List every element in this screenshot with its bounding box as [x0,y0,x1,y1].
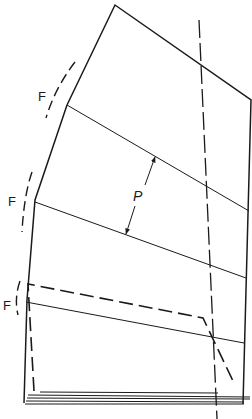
p-label: P [133,188,143,204]
p-arrow-down [126,206,135,234]
boom-line-2 [28,395,250,397]
sail-luff [24,105,67,403]
reefed-outline-line [28,284,233,391]
sail-diagram: F F F P [0,0,252,419]
batten-2 [35,202,246,278]
panel-spacing-dimension: P [126,157,155,234]
fold-label-1: F [38,89,46,104]
sail-outline [24,5,251,404]
sail-head-and-leech [67,5,251,404]
reefed-outline [28,284,233,391]
fold-label-2: F [8,194,16,209]
fold-arc-1 [46,62,75,118]
fold-arc-2 [22,172,32,232]
boom-line-1 [40,392,218,393]
fold-arc-3 [16,281,20,315]
batten-1 [67,105,249,211]
p-arrow-up [145,157,155,185]
mast-line [199,20,217,419]
boom-line-4 [26,401,244,402]
battens [26,105,249,343]
fold-label-3: F [3,298,11,313]
